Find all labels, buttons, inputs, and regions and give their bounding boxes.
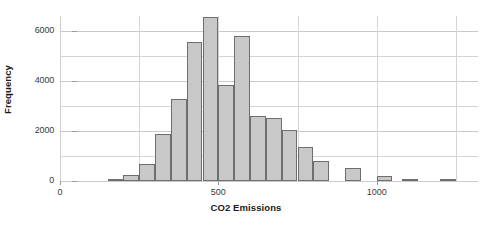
histogram-bar (171, 99, 187, 181)
x-axis-title: CO2 Emissions (0, 202, 492, 213)
histogram-bar (155, 134, 171, 182)
histogram-bar (266, 118, 282, 182)
y-tick-label-4000: 4000 (35, 75, 54, 85)
x-tick-label-500: 500 (211, 187, 226, 197)
x-tick-label-0: 0 (57, 187, 62, 197)
histogram-bar (377, 176, 393, 181)
histogram-bar (282, 130, 298, 181)
y-tick-label-0: 0 (49, 175, 54, 185)
histogram-bar (440, 179, 456, 181)
y-tick-label-6000: 6000 (35, 25, 54, 35)
y-tick-mark-0 (72, 181, 77, 182)
x-tick-mark-0 (60, 181, 61, 185)
histogram-bar (187, 42, 203, 182)
histogram-bar (313, 161, 329, 182)
x-tick-mark-1000 (377, 181, 378, 185)
histogram-bar (402, 179, 418, 181)
histogram-bar (234, 36, 250, 181)
y-axis-ticks: 0200040006000 (16, 0, 54, 227)
histogram-bar (298, 147, 314, 181)
histogram-bar (345, 168, 361, 181)
histogram-bar (139, 164, 155, 182)
gridline-y-0 (60, 181, 478, 182)
y-tick-mark-6000 (72, 31, 77, 32)
plot-area (60, 16, 478, 181)
y-tick-label-2000: 2000 (35, 125, 54, 135)
histogram-chart: 0200040006000 05001000 Frequency CO2 Emi… (0, 0, 492, 227)
histogram-bar (203, 17, 219, 182)
histogram-bar (108, 179, 124, 181)
y-tick-mark-2000 (72, 131, 77, 132)
histogram-bar (218, 85, 234, 181)
histogram-bar (123, 175, 139, 182)
y-tick-mark-4000 (72, 81, 77, 82)
histogram-bar (250, 116, 266, 182)
y-axis-title: Frequency (2, 65, 13, 114)
x-tick-mark-500 (218, 181, 219, 185)
x-tick-label-1000: 1000 (367, 187, 387, 197)
histogram-bars (60, 16, 478, 181)
